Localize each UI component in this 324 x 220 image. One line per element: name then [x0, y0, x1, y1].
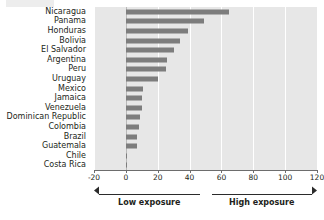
category-label: Argentina [0, 55, 90, 65]
bar [126, 76, 158, 81]
bar [126, 105, 142, 110]
bar-row [94, 36, 317, 46]
bar [126, 134, 137, 139]
category-label: Dominican Republic [0, 113, 90, 123]
bar [126, 124, 139, 129]
bars-layer [94, 7, 317, 170]
category-label: Honduras [0, 26, 90, 36]
bar-row [94, 74, 317, 84]
category-axis-labels: NicaraguaPanamaHondurasBoliviaEl Salvado… [0, 7, 90, 170]
cropped-header-artifact [6, 0, 54, 7]
bar [126, 28, 188, 33]
category-label: Uruguay [0, 74, 90, 84]
category-label: Chile [0, 151, 90, 161]
bar-row [94, 84, 317, 94]
x-axis-tick-label: 40 [185, 174, 195, 182]
bar [126, 163, 127, 168]
bar-row [94, 103, 317, 113]
bar-row [94, 45, 317, 55]
high-exposure-rule [212, 194, 313, 195]
category-label: Nicaragua [0, 7, 90, 17]
bar [126, 96, 142, 101]
category-label: Mexico [0, 84, 90, 94]
bar-row [94, 7, 317, 17]
bar-row [94, 55, 317, 65]
category-label: Panama [0, 17, 90, 27]
x-axis-tick-label: 60 [217, 174, 227, 182]
category-label: Venezuela [0, 103, 90, 113]
low-exposure-rule [99, 194, 200, 195]
bar [126, 67, 166, 72]
bar-row [94, 113, 317, 123]
bar [126, 57, 167, 62]
bar [126, 153, 128, 158]
low-exposure-label: Low exposure [118, 199, 180, 207]
bar [126, 48, 174, 53]
high-exposure-arrowhead-icon [312, 187, 317, 195]
x-axis-tick-label: 120 [310, 174, 324, 182]
bar-row [94, 26, 317, 36]
bar [126, 38, 180, 43]
bar-row [94, 122, 317, 132]
category-label: Colombia [0, 122, 90, 132]
category-label: Guatemala [0, 141, 90, 151]
bar [126, 9, 230, 14]
x-axis-line [94, 170, 317, 171]
low-exposure-arrowhead-icon [94, 187, 99, 195]
bar [126, 86, 144, 91]
x-axis-tick-label: -20 [88, 174, 100, 182]
x-axis-tick-label: 0 [123, 174, 128, 182]
high-exposure-label: High exposure [229, 199, 294, 207]
plot-area [94, 7, 317, 170]
bar-row [94, 93, 317, 103]
bar-row [94, 17, 317, 27]
x-axis-tick-label: 20 [153, 174, 163, 182]
category-label: Brazil [0, 132, 90, 142]
category-label: Jamaica [0, 93, 90, 103]
category-label: Bolivia [0, 36, 90, 46]
bar [126, 115, 140, 120]
exposure-scale-band: Low exposureHigh exposure [94, 190, 317, 214]
x-axis-tick-label: 100 [278, 174, 292, 182]
category-label: Peru [0, 65, 90, 75]
gridline [317, 7, 318, 170]
category-label: El Salvador [0, 45, 90, 55]
bar-row [94, 161, 317, 171]
bar-row [94, 132, 317, 142]
bar [126, 144, 137, 149]
bar-row [94, 141, 317, 151]
x-axis-tick-label: 80 [249, 174, 259, 182]
bar [126, 19, 204, 24]
bar-row [94, 151, 317, 161]
category-label: Costa Rica [0, 161, 90, 171]
bar-row [94, 65, 317, 75]
